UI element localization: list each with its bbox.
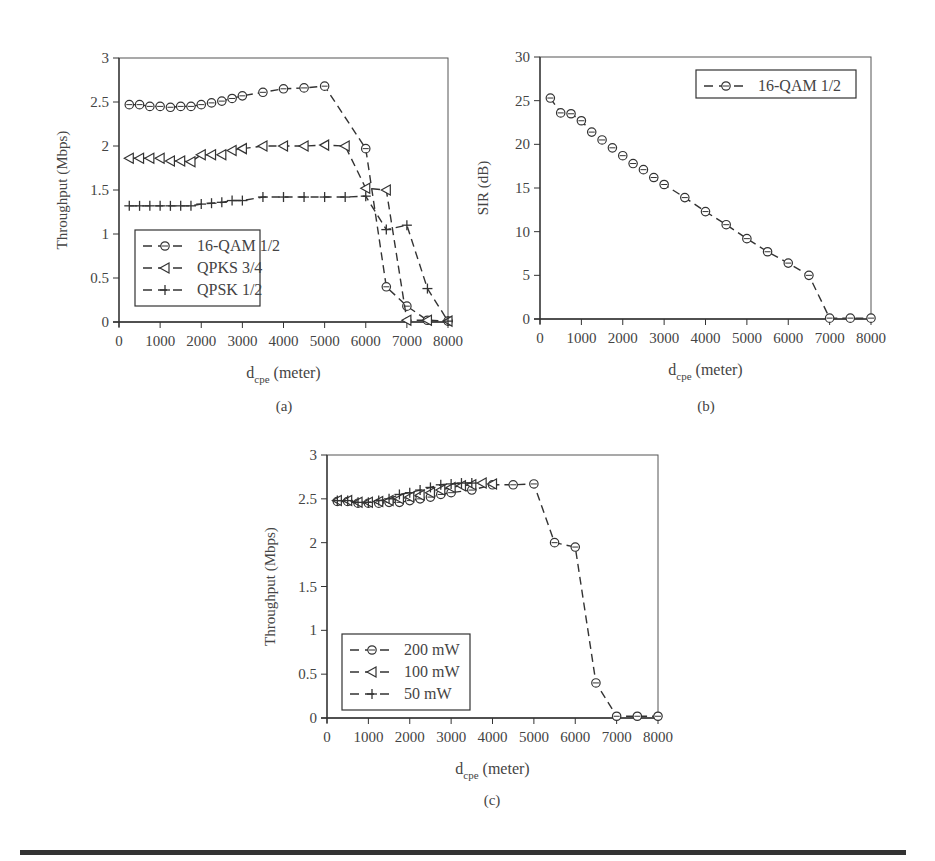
x-axis-label: dcpe (meter): [455, 760, 529, 781]
x-tick-label: 6000: [560, 729, 590, 745]
chart-c-plot: 00.511.522.53010002000300040005000600070…: [0, 0, 935, 861]
x-tick-label: 3000: [436, 729, 466, 745]
x-tick-label: 7000: [602, 729, 632, 745]
x-tick-label: 5000: [519, 729, 549, 745]
legend-entry: 100 mW: [404, 663, 460, 680]
y-tick-label: 3: [310, 447, 318, 463]
x-tick-label: 1000: [353, 729, 383, 745]
x-tick-label: 2000: [395, 729, 425, 745]
y-tick-label: 1.5: [298, 579, 317, 595]
x-tick-label: 4000: [478, 729, 508, 745]
x-tick-label: 0: [323, 729, 331, 745]
y-tick-label: 2.5: [298, 491, 317, 507]
legend: 200 mW100 mW50 mW: [342, 634, 470, 710]
y-axis-label: Throughput (Mbps): [262, 527, 279, 646]
x-tick-label: 8000: [643, 729, 673, 745]
legend-entry: 200 mW: [404, 641, 460, 658]
y-tick-label: 1: [310, 622, 318, 638]
bottom-rule-divider: [20, 850, 906, 855]
caption-c: (c): [462, 792, 522, 809]
y-tick-label: 0.5: [298, 666, 317, 682]
y-tick-label: 0: [310, 710, 318, 726]
legend-entry: 50 mW: [404, 685, 452, 702]
axes: 00.511.522.53010002000300040005000600070…: [262, 447, 673, 781]
y-tick-label: 2: [310, 535, 318, 551]
